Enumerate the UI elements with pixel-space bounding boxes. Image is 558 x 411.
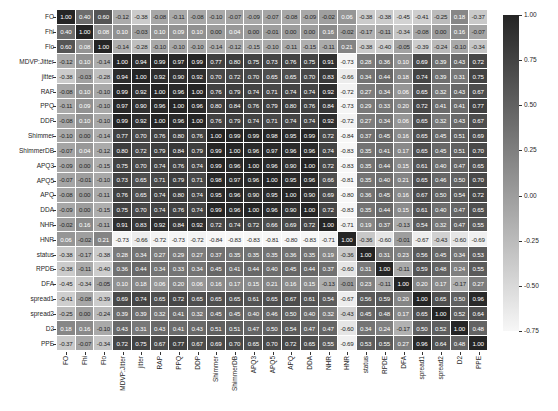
heatmap-cell: 0.54: [282, 321, 301, 336]
heatmap-cell: -0.08: [151, 10, 170, 25]
heatmap-cell: -0.73: [338, 99, 357, 114]
heatmap-cell: 0.98: [263, 129, 282, 144]
x-tick-label: spread1: [418, 356, 425, 380]
heatmap-cell: 0.96: [301, 173, 320, 188]
heatmap-cell: 0.79: [226, 84, 245, 99]
heatmap-cell: 0.92: [319, 114, 338, 129]
heatmap-cell: 0.45: [432, 129, 451, 144]
heatmap-cell: 0.73: [263, 54, 282, 69]
heatmap-cell: 0.79: [169, 173, 188, 188]
heatmap-cell: 1.00: [301, 203, 320, 218]
heatmap-cell: 0.51: [451, 129, 470, 144]
y-tick-label: MDVP:Jitter: [19, 58, 54, 65]
heatmap-cell: -0.43: [338, 307, 357, 322]
heatmap-cell: 0.61: [413, 203, 432, 218]
heatmap-cell: 0.65: [132, 188, 151, 203]
heatmap-cell: 0.47: [451, 203, 470, 218]
heatmap-cell: 0.17: [226, 277, 245, 292]
heatmap-cell: 0.10: [394, 54, 413, 69]
heatmap-cell: 0.18: [394, 69, 413, 84]
heatmap-cell: -0.09: [301, 10, 320, 25]
heatmap-cell: 0.72: [244, 218, 263, 233]
heatmap-cell: -0.81: [263, 232, 282, 247]
heatmap-cell: 1.00: [113, 54, 132, 69]
heatmap-cell: 0.61: [244, 292, 263, 307]
heatmap-cell: -0.84: [338, 129, 357, 144]
heatmap-cell: -0.01: [338, 277, 357, 292]
heatmap-cell: 0.75: [132, 336, 151, 351]
heatmap-cell: 0.76: [301, 99, 320, 114]
heatmap-cell: -0.12: [94, 143, 113, 158]
y-tick-mark: [53, 284, 56, 285]
heatmap-cell: 0.65: [413, 129, 432, 144]
heatmap-cell: -0.41: [413, 10, 432, 25]
heatmap-cell: 0.64: [432, 336, 451, 351]
heatmap-cell: 0.74: [151, 203, 170, 218]
heatmap-cell: -0.25: [432, 10, 451, 25]
heatmap-cell: 0.34: [357, 321, 376, 336]
heatmap-cell: 0.16: [207, 277, 226, 292]
heatmap-cell: -0.84: [207, 232, 226, 247]
heatmap-cell: -0.01: [263, 25, 282, 40]
heatmap-cell: 0.69: [319, 188, 338, 203]
heatmap-cell: -0.08: [57, 114, 76, 129]
heatmap-cell: 0.55: [469, 262, 488, 277]
heatmap-cell: 0.97: [113, 99, 132, 114]
heatmap-cell: 0.72: [301, 218, 320, 233]
y-tick-label: ShimmerDB: [19, 147, 54, 154]
heatmap-cell: 0.98: [207, 173, 226, 188]
x-tick-mark: [179, 352, 180, 355]
x-tick-mark: [404, 352, 405, 355]
heatmap-cell: 0.06: [338, 10, 357, 25]
y-tick-mark: [53, 269, 56, 270]
heatmap-cell: 1.00: [376, 262, 395, 277]
colorbar-tick-label: 1.00: [524, 11, 537, 18]
colorbar-tick-mark: [519, 150, 522, 151]
heatmap-cell: 0.20: [394, 292, 413, 307]
heatmap-cell: 0.76: [169, 158, 188, 173]
heatmap-cell: 0.00: [282, 25, 301, 40]
heatmap-cell: 0.65: [469, 203, 488, 218]
y-tick-mark: [53, 240, 56, 241]
heatmap-cell: 0.45: [357, 307, 376, 322]
heatmap-cell: 0.16: [76, 321, 95, 336]
colorbar-tick-label: 0.00: [524, 192, 537, 199]
heatmap-cell: 0.45: [226, 307, 245, 322]
heatmap-cell: -0.02: [338, 25, 357, 40]
heatmap-cell: 0.99: [113, 84, 132, 99]
heatmap-cell: -0.01: [394, 232, 413, 247]
heatmap-cell: 0.44: [244, 262, 263, 277]
heatmap-cell: 0.21: [94, 232, 113, 247]
heatmap-cell: 0.15: [394, 203, 413, 218]
heatmap-cell: -0.08: [413, 25, 432, 40]
x-tick-mark: [235, 352, 236, 355]
heatmap-cell: 0.36: [113, 262, 132, 277]
heatmap-cell: 0.95: [263, 188, 282, 203]
heatmap-cell: 0.74: [226, 218, 245, 233]
heatmap-cell: 0.34: [151, 262, 170, 277]
y-tick-mark: [53, 77, 56, 78]
heatmap-cell: -0.60: [338, 321, 357, 336]
heatmap-cell: 0.28: [357, 54, 376, 69]
heatmap-cell: 0.18: [57, 321, 76, 336]
x-tick-mark: [66, 352, 67, 355]
heatmap-cell: 0.48: [376, 307, 395, 322]
heatmap-cell: 0.61: [301, 292, 320, 307]
heatmap-cell: 0.40: [244, 307, 263, 322]
heatmap-cell: 0.23: [394, 247, 413, 262]
y-tick-label: spread1: [31, 295, 55, 302]
x-tick-mark: [160, 352, 161, 355]
heatmap-cell: 0.70: [244, 69, 263, 84]
heatmap-cell: 0.65: [188, 292, 207, 307]
heatmap-cell: -0.40: [94, 262, 113, 277]
heatmap-cell: -0.10: [451, 40, 470, 55]
heatmap-cell: 0.34: [376, 114, 395, 129]
heatmap-cell: 0.71: [263, 84, 282, 99]
x-tick-mark: [460, 352, 461, 355]
colorbar-tick-mark: [519, 60, 522, 61]
heatmap-cell: -0.24: [432, 40, 451, 55]
heatmap-cell: 0.20: [394, 99, 413, 114]
heatmap-cell: -0.10: [94, 114, 113, 129]
heatmap-cell: 0.45: [207, 262, 226, 277]
heatmap-cell: -0.12: [57, 54, 76, 69]
